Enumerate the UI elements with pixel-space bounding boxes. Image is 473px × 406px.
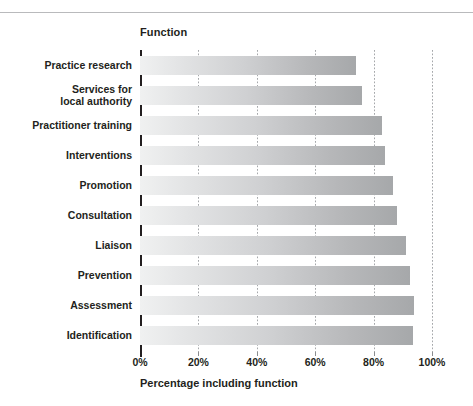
bar-row — [140, 176, 432, 195]
category-label: Consultation — [0, 209, 132, 222]
x-tick-label: 80% — [363, 356, 384, 368]
bar — [140, 296, 414, 315]
x-tick-label: 0% — [132, 356, 147, 368]
x-tick-label: 100% — [419, 356, 446, 368]
bar-row — [140, 236, 432, 255]
bar — [140, 86, 362, 105]
category-label: Services for local authority — [0, 83, 132, 108]
bar — [140, 116, 382, 135]
x-tick-label: 40% — [246, 356, 267, 368]
bar — [140, 206, 397, 225]
category-label: Assessment — [0, 299, 132, 312]
bar-row — [140, 86, 432, 105]
top-divider — [0, 12, 473, 13]
category-label: Identification — [0, 329, 132, 342]
bar-row — [140, 206, 432, 225]
gridline-100 — [432, 50, 433, 352]
chart-axis-title: Function — [140, 26, 187, 38]
bar-row — [140, 146, 432, 165]
x-tick-label: 60% — [305, 356, 326, 368]
category-label: Practice research — [0, 59, 132, 72]
bar — [140, 176, 393, 195]
bar-row — [140, 296, 432, 315]
bar — [140, 236, 406, 255]
category-label: Promotion — [0, 179, 132, 192]
x-axis-label: Percentage including function — [140, 377, 298, 389]
x-tick-label: 20% — [188, 356, 209, 368]
bar-row — [140, 266, 432, 285]
bar-row — [140, 326, 432, 345]
bar — [140, 146, 385, 165]
bar — [140, 266, 410, 285]
bar — [140, 326, 413, 345]
bar-row — [140, 56, 432, 75]
category-label: Interventions — [0, 149, 132, 162]
category-label: Practitioner training — [0, 119, 132, 132]
bar — [140, 56, 356, 75]
bar-row — [140, 116, 432, 135]
category-label: Liaison — [0, 239, 132, 252]
category-label: Prevention — [0, 269, 132, 282]
bar-chart-figure: Function Practice researchServices for l… — [0, 0, 473, 406]
